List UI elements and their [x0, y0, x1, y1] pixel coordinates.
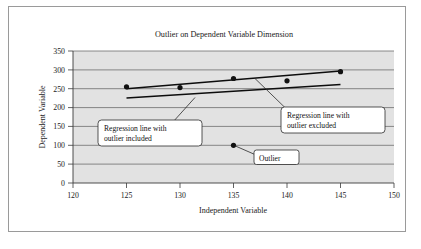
callout-outlier-included[interactable]: Regression line with outlier included — [98, 120, 202, 146]
data-point — [124, 84, 129, 89]
y-tick-label-300: 300 — [53, 66, 65, 75]
y-tick-label-100: 100 — [53, 141, 65, 150]
callout-outlier-included-line2: outlier included — [104, 134, 152, 143]
y-tick-label-0: 0 — [61, 179, 65, 188]
y-tick-label-350: 350 — [53, 47, 65, 56]
x-tick-label-130: 130 — [174, 191, 186, 200]
x-tick-label-150: 150 — [388, 191, 400, 200]
x-axis-ticks — [73, 183, 394, 188]
x-tick-label-125: 125 — [121, 191, 133, 200]
callout-outlier-excluded-line2: outlier excluded — [287, 121, 336, 130]
y-tick-label-50: 50 — [57, 160, 65, 169]
chart-canvas: 350 300 250 200 150 100 50 0 120 125 130… — [9, 7, 407, 233]
data-point — [338, 69, 343, 74]
callout-outlier-excluded-line1: Regression line with — [287, 111, 350, 120]
y-axis-ticks — [68, 51, 73, 183]
data-point — [177, 85, 182, 90]
data-point — [284, 78, 289, 83]
x-tick-label-135: 135 — [228, 191, 240, 200]
chart-title: Outlier on Dependent Variable Dimension — [155, 30, 293, 39]
callout-outlier-label: Outlier — [259, 154, 281, 163]
x-tick-label-120: 120 — [67, 191, 79, 200]
callout-outlier-included-line1: Regression line with — [104, 124, 167, 133]
x-axis-title: Independent Variable — [199, 206, 267, 215]
y-tick-label-150: 150 — [53, 122, 65, 131]
callout-outlier[interactable]: Outlier — [254, 150, 299, 165]
outlier-data-point — [231, 143, 236, 148]
y-tick-label-250: 250 — [53, 85, 65, 94]
x-tick-label-140: 140 — [281, 191, 293, 200]
figure-frame: 350 300 250 200 150 100 50 0 120 125 130… — [8, 6, 406, 232]
x-tick-label-145: 145 — [335, 191, 347, 200]
y-tick-label-200: 200 — [53, 103, 65, 112]
callout-outlier-excluded[interactable]: Regression line with outlier excluded — [281, 107, 385, 133]
data-point — [231, 76, 236, 81]
y-axis-title: Dependent Variable — [38, 85, 47, 149]
